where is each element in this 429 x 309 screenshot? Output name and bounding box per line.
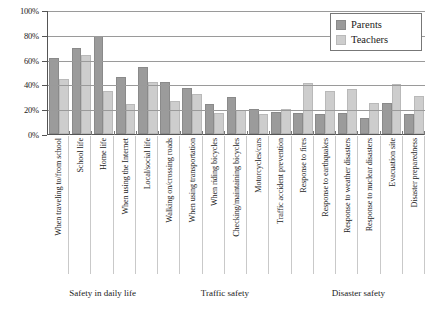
bar-teachers — [148, 82, 158, 134]
bar-parents — [315, 114, 325, 134]
category-label-cell: Traffic accident prevention — [269, 136, 291, 274]
cropped-title-strip — [47, 0, 347, 9]
bar-teachers — [414, 96, 424, 134]
category-label: Home life — [98, 138, 107, 170]
category-label: Evacuation site — [387, 138, 396, 187]
category-label: Response to nuclear disasters — [365, 138, 374, 231]
group-label: Safety in daily life — [69, 288, 136, 298]
category-label-cell: Walking on/crossing roads — [158, 136, 180, 274]
legend-swatch-teachers — [336, 35, 346, 45]
bar-group — [270, 11, 292, 134]
category-label: When using the Internet — [120, 138, 129, 215]
category-label-cell: Disaster preparedness — [403, 136, 425, 274]
category-label-cell: Response to nuclear disasters — [358, 136, 380, 274]
category-label: Response to earthquakes — [320, 138, 329, 217]
bar-group — [70, 11, 92, 134]
category-label: When riding bicycles — [209, 138, 218, 206]
category-label: Traffic accident prevention — [276, 138, 285, 224]
bar-teachers — [103, 91, 113, 134]
bar-teachers — [369, 103, 379, 134]
category-label-cell: Evacuation site — [381, 136, 403, 274]
category-label-cell: Response to weather disasters — [336, 136, 358, 274]
category-label-cell: Response to fires — [292, 136, 314, 274]
legend-item-teachers: Teachers — [336, 32, 416, 47]
bar-parents — [227, 97, 237, 134]
bar-teachers — [281, 109, 291, 134]
bar-group — [181, 11, 203, 134]
bar-teachers — [126, 104, 136, 134]
grouped-bar-chart: 0%20%40%60%80%100% Parents Teachers When… — [0, 0, 429, 309]
legend-label-teachers: Teachers — [351, 34, 388, 45]
bar-group — [225, 11, 247, 134]
category-label-cell: Local/social life — [136, 136, 158, 274]
x-axis-category-labels: When traveling to/from schoolSchool life… — [47, 136, 425, 274]
bar-group — [292, 11, 314, 134]
category-label: Response to weather disasters — [343, 138, 352, 233]
gridline — [48, 85, 425, 86]
legend: Parents Teachers — [330, 13, 422, 51]
category-label: When traveling to/from school — [54, 138, 63, 236]
bar-parents — [160, 82, 170, 134]
bar-teachers — [325, 91, 335, 134]
bar-teachers — [236, 110, 246, 134]
bar-parents — [249, 109, 259, 134]
category-label-cell: When traveling to/from school — [47, 136, 69, 274]
bar-parents — [138, 67, 148, 134]
y-tick-label: 60% — [24, 56, 39, 66]
legend-item-parents: Parents — [336, 17, 416, 32]
bar-parents — [404, 114, 414, 134]
bar-group — [159, 11, 181, 134]
bar-teachers — [170, 101, 180, 134]
bar-group — [137, 11, 159, 134]
bar-parents — [382, 103, 392, 134]
category-label-cell: When riding bicycles — [203, 136, 225, 274]
category-label-cell: Motorcycles/cars — [247, 136, 269, 274]
bar-teachers — [347, 89, 357, 134]
bar-teachers — [59, 79, 69, 134]
y-tick-label: 20% — [24, 105, 39, 115]
y-axis: 0%20%40%60%80%100% — [0, 0, 45, 140]
category-label-cell: Home life — [91, 136, 113, 274]
y-tick-label: 80% — [24, 31, 39, 41]
bar-group — [203, 11, 225, 134]
bar-group — [92, 11, 114, 134]
category-label-cell: School life — [69, 136, 91, 274]
category-label-cell: When using the Internet — [114, 136, 136, 274]
group-label: Disaster safety — [332, 288, 385, 298]
bar-parents — [49, 58, 59, 134]
bar-parents — [293, 113, 303, 134]
category-label: Checking/maintaining bicycles — [231, 138, 240, 237]
category-label: Disaster preparedness — [409, 138, 418, 208]
bar-parents — [338, 113, 348, 134]
bar-teachers — [81, 55, 91, 134]
bar-parents — [205, 104, 215, 134]
y-tick-label: 100% — [20, 6, 39, 16]
gridline — [48, 110, 425, 111]
category-label-cell: When using transportation — [180, 136, 202, 274]
bar-parents — [360, 118, 370, 134]
bar-teachers — [192, 94, 202, 134]
bar-teachers — [214, 113, 224, 134]
category-label: Motorcycles/cars — [254, 138, 263, 193]
bar-teachers — [303, 83, 313, 134]
legend-swatch-parents — [336, 20, 346, 30]
x-axis-group-labels: Safety in daily lifeTraffic safetyDisast… — [47, 288, 425, 304]
category-label-cell: Checking/maintaining bicycles — [225, 136, 247, 274]
legend-label-parents: Parents — [351, 19, 382, 30]
category-label-cell: Response to earthquakes — [314, 136, 336, 274]
category-label: Response to fires — [298, 138, 307, 193]
bar-group — [115, 11, 137, 134]
category-label: Walking on/crossing roads — [165, 138, 174, 223]
y-tick-label: 0% — [28, 130, 39, 140]
category-label: School life — [76, 138, 85, 173]
category-label: When using transportation — [187, 138, 196, 222]
bar-parents — [271, 112, 281, 134]
bar-teachers — [259, 114, 269, 134]
y-tick-label: 40% — [24, 80, 39, 90]
bar-group — [48, 11, 70, 134]
gridline — [48, 61, 425, 62]
gridline — [48, 11, 425, 12]
group-label: Traffic safety — [201, 288, 249, 298]
category-label: Local/social life — [143, 138, 152, 189]
bar-group — [248, 11, 270, 134]
